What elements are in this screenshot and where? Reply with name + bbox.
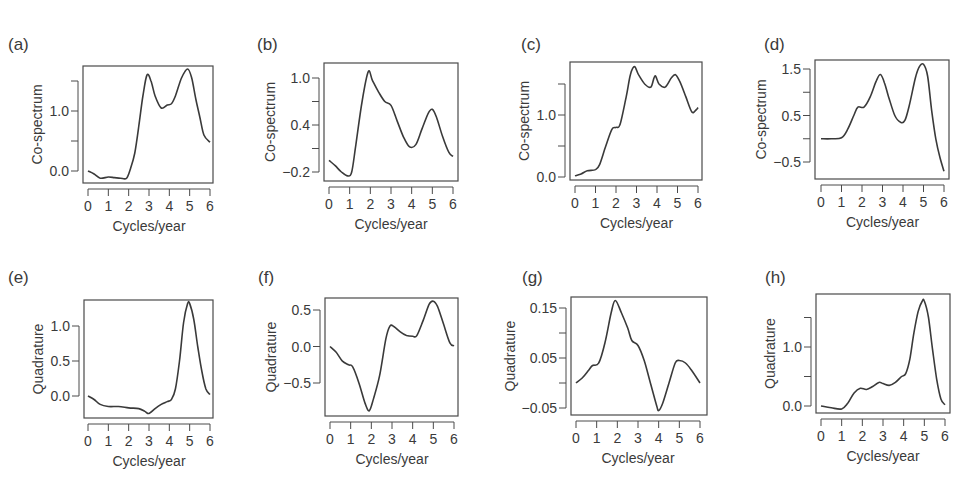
- x-tick-label: 3: [388, 431, 396, 447]
- x-tick-label: 5: [186, 198, 194, 214]
- data-line: [575, 67, 698, 176]
- data-line: [88, 301, 210, 413]
- y-axis-label: Co-spectrum: [262, 82, 278, 162]
- x-tick-label: 1: [838, 194, 846, 210]
- x-tick-label: 1: [104, 433, 112, 449]
- x-tick-label: 3: [633, 195, 641, 211]
- panel-g: (g)0123456Cycles/year−0.050.050.15Quadra…: [502, 268, 708, 466]
- y-tick-label: 1.0: [537, 107, 557, 123]
- x-tick-label: 4: [409, 431, 417, 447]
- plot-frame: [571, 297, 707, 415]
- y-tick-label: 1.0: [51, 318, 71, 334]
- x-tick-label: 6: [206, 198, 214, 214]
- x-tick-label: 0: [326, 431, 334, 447]
- y-tick-label: 0.0: [51, 388, 71, 404]
- x-axis-label: Cycles/year: [600, 215, 673, 231]
- x-tick-label: 0: [84, 433, 92, 449]
- x-tick-label: 0: [571, 195, 579, 211]
- y-tick-label: 0.5: [51, 353, 71, 369]
- data-line: [576, 301, 700, 411]
- data-line: [330, 301, 454, 411]
- y-tick-label: 1.0: [291, 70, 311, 86]
- x-tick-label: 3: [145, 433, 153, 449]
- x-tick-label: 3: [879, 194, 887, 210]
- x-tick-label: 5: [429, 431, 437, 447]
- x-tick-label: 1: [838, 428, 846, 444]
- panel-label: (g): [522, 268, 543, 287]
- x-tick-label: 1: [104, 198, 112, 214]
- x-tick-label: 4: [900, 428, 908, 444]
- x-tick-label: 2: [858, 194, 866, 210]
- x-tick-label: 0: [84, 198, 92, 214]
- x-tick-label: 6: [694, 195, 702, 211]
- y-tick-label: 0.0: [537, 169, 557, 185]
- y-tick-label: 1.0: [50, 103, 70, 119]
- x-tick-label: 1: [592, 195, 600, 211]
- y-tick-label: 1.0: [783, 339, 803, 355]
- y-axis-label: Quadrature: [263, 321, 279, 392]
- x-tick-label: 5: [674, 195, 682, 211]
- data-line: [88, 69, 210, 179]
- x-tick-label: 4: [653, 195, 661, 211]
- x-tick-label: 6: [696, 430, 704, 446]
- x-tick-label: 4: [899, 194, 907, 210]
- x-axis-label: Cycles/year: [112, 218, 185, 234]
- x-tick-label: 3: [634, 430, 642, 446]
- x-tick-label: 2: [858, 428, 866, 444]
- x-tick-label: 0: [325, 196, 333, 212]
- x-tick-label: 3: [387, 196, 395, 212]
- panel-c: (c)0123456Cycles/year0.01.0Co-spectrum: [516, 35, 703, 231]
- x-tick-label: 6: [941, 428, 949, 444]
- x-tick-label: 1: [347, 431, 355, 447]
- panel-label: (b): [257, 35, 278, 54]
- panel-e: (e)0123456Cycles/year0.00.51.0Quadrature: [8, 268, 214, 469]
- panel-d: (d)0123456Cycles/year−0.50.51.5Co-spectr…: [753, 35, 949, 230]
- x-tick-label: 4: [165, 433, 173, 449]
- y-axis-label: Co-spectrum: [29, 84, 45, 164]
- x-axis-label: Cycles/year: [846, 448, 919, 464]
- y-axis-label: Co-spectrum: [753, 79, 769, 159]
- y-tick-label: 0.0: [50, 163, 70, 179]
- y-axis-label: Quadrature: [762, 318, 778, 389]
- y-tick-label: −0.5: [773, 154, 801, 170]
- y-tick-label: 1.5: [782, 61, 802, 77]
- x-tick-label: 2: [613, 430, 621, 446]
- x-tick-label: 2: [125, 198, 133, 214]
- figure-grid: (a)0123456Cycles/year0.01.0Co-spectrum(b…: [0, 0, 966, 496]
- x-tick-label: 5: [920, 428, 928, 444]
- y-axis-label: Quadrature: [30, 323, 46, 394]
- x-tick-label: 0: [817, 194, 825, 210]
- x-tick-label: 0: [572, 430, 580, 446]
- x-tick-label: 2: [612, 195, 620, 211]
- x-tick-label: 5: [428, 196, 436, 212]
- y-tick-label: 0.0: [783, 398, 803, 414]
- x-tick-label: 5: [675, 430, 683, 446]
- y-tick-label: 0.4: [291, 117, 311, 133]
- y-tick-label: 0.0: [292, 339, 312, 355]
- x-tick-label: 3: [879, 428, 887, 444]
- panel-label: (a): [8, 35, 29, 54]
- x-tick-label: 4: [655, 430, 663, 446]
- plot-frame: [570, 62, 702, 180]
- x-tick-label: 6: [449, 196, 457, 212]
- panel-label: (d): [764, 35, 785, 54]
- x-tick-label: 4: [165, 198, 173, 214]
- x-tick-label: 1: [593, 430, 601, 446]
- x-tick-label: 6: [206, 433, 214, 449]
- y-tick-label: 0.05: [530, 350, 557, 366]
- panel-label: (f): [258, 268, 274, 287]
- panel-a: (a)0123456Cycles/year0.01.0Co-spectrum: [8, 35, 214, 234]
- panel-label: (h): [765, 268, 786, 287]
- plot-frame: [816, 294, 950, 413]
- x-tick-label: 6: [450, 431, 458, 447]
- y-axis-label: Quadrature: [502, 320, 518, 391]
- x-tick-label: 5: [186, 433, 194, 449]
- x-tick-label: 6: [940, 194, 948, 210]
- y-tick-label: −0.2: [282, 164, 310, 180]
- x-axis-label: Cycles/year: [112, 453, 185, 469]
- panel-label: (e): [8, 268, 29, 287]
- panel-b: (b)0123456Cycles/year−0.20.41.0Co-spectr…: [257, 35, 458, 232]
- x-axis-label: Cycles/year: [846, 214, 919, 230]
- x-tick-label: 3: [145, 198, 153, 214]
- panel-label: (c): [521, 35, 541, 54]
